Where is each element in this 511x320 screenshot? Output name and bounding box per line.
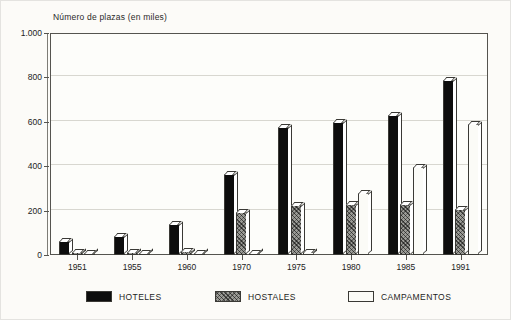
x-tick-mark — [351, 255, 352, 260]
bar-hostales-1991 — [455, 209, 466, 255]
bar-campamentos-1980 — [358, 193, 369, 255]
bar-groups — [50, 33, 488, 255]
x-tick-mark — [242, 255, 243, 260]
y-tick-mark — [44, 33, 49, 34]
bar-campamentos-1951 — [84, 253, 95, 255]
x-tick-label: 1985 — [396, 262, 415, 272]
legend-swatch-hoteles — [86, 291, 112, 302]
x-tick-label: 1955 — [123, 262, 142, 272]
bar-group — [114, 33, 150, 255]
bar-group — [333, 33, 369, 255]
legend-label-campamentos: CAMPAMENTOS — [381, 292, 451, 302]
bar-group — [169, 33, 205, 255]
y-tick-mark — [44, 211, 49, 212]
chart-page: Número de plazas (en miles) 020040060080… — [0, 0, 511, 320]
bar-hostales-1970 — [236, 212, 247, 255]
bar-group — [59, 33, 95, 255]
bar-hoteles-1960 — [169, 224, 180, 255]
x-tick-mark — [187, 255, 188, 260]
bar-hostales-1975 — [291, 205, 302, 255]
y-tick-mark — [44, 122, 49, 123]
bar-campamentos-1955 — [139, 253, 150, 255]
legend-item-campamentos[interactable]: CAMPAMENTOS — [348, 291, 451, 302]
y-tick-label: 400 — [0, 161, 42, 171]
x-tick-label: 1960 — [177, 262, 196, 272]
bar-hoteles-1985 — [388, 115, 399, 255]
y-tick-mark — [44, 166, 49, 167]
x-tick-label: 1980 — [342, 262, 361, 272]
chart-axis-title: Número de plazas (en miles) — [53, 12, 167, 22]
bar-campamentos-1960 — [194, 253, 205, 255]
bar-hoteles-1951 — [59, 241, 70, 255]
y-tick-label: 0 — [0, 250, 42, 260]
x-tick-mark — [132, 255, 133, 260]
bar-hoteles-1975 — [278, 127, 289, 255]
x-tick-label: 1975 — [287, 262, 306, 272]
x-tick-mark — [296, 255, 297, 260]
bar-group — [388, 33, 424, 255]
y-axis-inner-line — [47, 34, 48, 255]
bar-hoteles-1991 — [443, 80, 454, 255]
bar-campamentos-1975 — [303, 252, 314, 255]
x-tick-label: 1951 — [68, 262, 87, 272]
chart-legend: HOTELESHOSTALESCAMPAMENTOS — [0, 291, 511, 307]
y-tick-mark — [44, 77, 49, 78]
legend-item-hoteles[interactable]: HOTELES — [86, 291, 161, 302]
bar-hostales-1985 — [400, 204, 411, 256]
x-tick-mark — [461, 255, 462, 260]
legend-label-hoteles: HOTELES — [119, 292, 161, 302]
x-tick-label: 1970 — [232, 262, 251, 272]
y-tick-label: 800 — [0, 72, 42, 82]
bar-campamentos-1991 — [468, 124, 479, 255]
bar-campamentos-1985 — [413, 167, 424, 255]
legend-label-hostales: HOSTALES — [248, 292, 296, 302]
bar-hoteles-1970 — [224, 174, 235, 255]
bar-campamentos-1970 — [249, 253, 260, 255]
bar-hostales-1980 — [346, 204, 357, 255]
bar-hoteles-1955 — [114, 236, 125, 255]
bar-group — [278, 33, 314, 255]
legend-swatch-hostales — [215, 291, 241, 302]
legend-swatch-campamentos — [348, 291, 374, 302]
x-tick-label: 1991 — [451, 262, 470, 272]
x-tick-mark — [406, 255, 407, 260]
y-tick-label: 600 — [0, 117, 42, 127]
x-tick-mark — [77, 255, 78, 260]
bar-hoteles-1980 — [333, 122, 344, 255]
y-tick-mark — [44, 255, 49, 256]
legend-item-hostales[interactable]: HOSTALES — [215, 291, 296, 302]
bar-group — [224, 33, 260, 255]
bar-group — [443, 33, 479, 255]
y-tick-label: 1.000 — [0, 28, 42, 38]
y-tick-label: 200 — [0, 206, 42, 216]
